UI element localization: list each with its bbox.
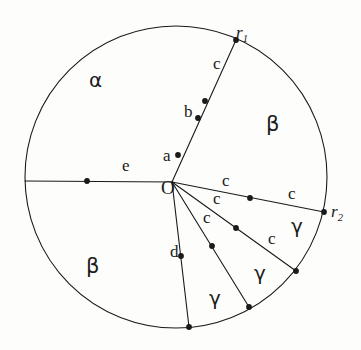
label-g2: γ: [254, 263, 266, 283]
label-d: d: [170, 243, 179, 260]
label-e: e: [122, 157, 130, 174]
midpoint-dot-ray-m2: [209, 243, 215, 249]
label-alpha: α: [89, 70, 102, 90]
endpoint-dot-ray-m1: [293, 268, 299, 274]
label-c_r3: c: [213, 190, 221, 207]
ray-ray-e: [25, 181, 172, 182]
label-O: O: [161, 178, 175, 197]
ray-ray-r1: [172, 40, 236, 182]
diagram-canvas: [0, 0, 361, 350]
label-beta2: β: [86, 256, 99, 277]
label-b: b: [184, 103, 193, 120]
label-r2-subscript: 2: [338, 212, 343, 223]
midpoint-dot-ray-m1: [233, 225, 239, 231]
midpoint-dot-ray-r1: [202, 98, 208, 104]
endpoint-dot-ray-d: [186, 324, 192, 330]
chord-dot-pt-b: [195, 115, 201, 121]
circle-outline: [25, 26, 327, 328]
label-c_r4: c: [268, 230, 276, 247]
label-c_r5: c: [203, 209, 211, 226]
label-g1: γ: [291, 216, 303, 236]
label-c_top: c: [213, 55, 221, 72]
label-g3: γ: [209, 288, 221, 308]
label-r2: r2: [331, 203, 343, 224]
label-c_r2: c: [288, 185, 296, 202]
midpoint-dot-ray-r2: [247, 195, 253, 201]
midpoint-dot-ray-e: [84, 178, 90, 184]
chord-dot-pt-a: [175, 152, 181, 158]
label-r1: r1: [236, 24, 248, 45]
label-c_r1: c: [222, 172, 230, 189]
label-beta1: β: [266, 114, 279, 135]
endpoint-dot-ray-m2: [246, 304, 252, 310]
endpoint-dot-ray-r2: [321, 209, 327, 215]
label-r1-subscript: 1: [243, 33, 248, 44]
label-a: a: [163, 147, 171, 164]
geometry-figure: r1r2Oαββeabccccccdγγγ: [0, 0, 361, 350]
